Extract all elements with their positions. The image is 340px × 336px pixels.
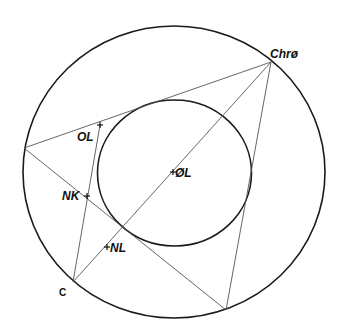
line-chro-bottom xyxy=(226,62,271,310)
label-nk: NK xyxy=(62,189,81,203)
line-left-bottom xyxy=(24,148,226,310)
ol-marker-icon xyxy=(97,122,103,128)
label-chro: Chrø xyxy=(270,47,299,61)
label-nl: NL xyxy=(110,241,126,255)
label-ol: OL xyxy=(77,130,94,144)
line-c-ol xyxy=(73,125,100,282)
nk-marker-icon xyxy=(84,193,90,199)
label-center: ØL xyxy=(175,166,192,180)
label-c: C xyxy=(59,287,66,298)
geometry-diagram: Chrø OL NK ØL NL C xyxy=(0,0,340,336)
